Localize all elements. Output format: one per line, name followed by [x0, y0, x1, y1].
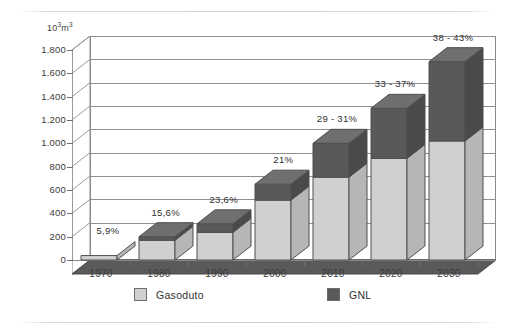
y-axis-labels: 02004006008001.0001.2001.4001.6001.800 — [14, 0, 66, 334]
y-axis-tick — [67, 237, 73, 238]
data-label: 38 - 43% — [433, 32, 473, 43]
chart-page: 103m3 02004006008001.0001.2001.4001.6001… — [0, 0, 513, 334]
y-axis-tick — [67, 190, 73, 191]
bar-column[interactable] — [0, 0, 513, 334]
x-axis-tick-label: 1990 — [187, 268, 247, 279]
data-label: 15,6% — [152, 207, 180, 218]
x-axis-tick — [246, 260, 247, 266]
y-axis-tick-label: 0 — [20, 254, 66, 265]
y-axis-tick — [67, 260, 73, 261]
x-axis-tick-label: 2020 — [361, 268, 421, 279]
x-axis-tick — [188, 260, 189, 266]
x-axis-tick — [420, 260, 421, 266]
y-axis-tick-label: 1.400 — [20, 91, 66, 102]
y-axis-tick-label: 600 — [20, 184, 66, 195]
y-axis-tick-label: 200 — [20, 231, 66, 242]
y-axis-tick — [67, 73, 73, 74]
y-axis-tick — [67, 167, 73, 168]
data-label: 5,9% — [96, 225, 119, 236]
chart-legend: GasodutoGNL — [0, 288, 513, 310]
x-axis-tick-label: 2030 — [419, 268, 479, 279]
x-axis-tick-label: 1980 — [129, 268, 189, 279]
legend-label: Gasoduto — [156, 289, 204, 301]
y-axis-tick — [67, 97, 73, 98]
x-axis-tick-label: 2000 — [245, 268, 305, 279]
legend-label: GNL — [349, 289, 372, 301]
y-axis-tick-label: 1.600 — [20, 67, 66, 78]
y-axis-tick-label: 800 — [20, 161, 66, 172]
y-axis-tick — [67, 120, 73, 121]
y-axis-tick-label: 400 — [20, 207, 66, 218]
y-axis-tick — [67, 50, 73, 51]
x-axis-tick — [362, 260, 363, 266]
data-label: 21% — [273, 154, 293, 165]
y-axis-tick-label: 1.000 — [20, 137, 66, 148]
y-axis-tick-label: 1.800 — [20, 44, 66, 55]
data-label: 33 - 37% — [375, 78, 415, 89]
data-label: 29 - 31% — [317, 113, 357, 124]
y-axis-tick — [67, 213, 73, 214]
x-axis-tick — [304, 260, 305, 266]
x-axis-tick — [130, 260, 131, 266]
y-axis-tick-label: 1.200 — [20, 114, 66, 125]
x-axis-tick — [478, 260, 479, 266]
x-axis-tick-label: 1970 — [71, 268, 131, 279]
legend-swatch-icon — [134, 288, 147, 301]
y-axis-tick — [67, 143, 73, 144]
legend-swatch-icon — [327, 288, 340, 301]
data-label: 23,6% — [210, 194, 238, 205]
legend-item[interactable]: GNL — [327, 288, 372, 301]
x-axis-tick-label: 2010 — [303, 268, 363, 279]
legend-item[interactable]: Gasoduto — [134, 288, 204, 301]
